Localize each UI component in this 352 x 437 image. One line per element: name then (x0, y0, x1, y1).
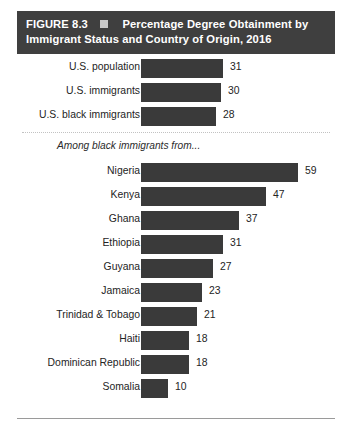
bar-track (141, 235, 223, 254)
bar-category-label: Guyana (0, 261, 140, 272)
bar-row: U.S. black immigrants28 (0, 106, 352, 130)
bar-value-label: 31 (230, 61, 242, 72)
bar-category-label: Jamaica (0, 285, 140, 296)
bar (141, 235, 223, 254)
section-divider (22, 132, 330, 133)
bar-track (141, 163, 298, 182)
bar-row: U.S. immigrants30 (0, 82, 352, 106)
bar-category-label: Ghana (0, 213, 140, 224)
bar-row: Dominican Republic18 (0, 354, 352, 378)
bar-track (141, 83, 221, 102)
figure-title-part-1: Percentage Degree Obtainment by (122, 18, 308, 30)
bar-category-label: Trinidad & Tobago (0, 309, 140, 320)
bar (141, 331, 189, 350)
figure-container: FIGURE 8.3 Percentage Degree Obtainment … (0, 0, 352, 437)
bar (141, 355, 189, 374)
bar-track (141, 307, 197, 326)
bar-track (141, 355, 189, 374)
bar (141, 83, 221, 102)
bar (141, 307, 197, 326)
bar-category-label: U.S. black immigrants (0, 109, 140, 120)
bar-value-label: 18 (196, 357, 208, 368)
bar-category-label: Kenya (0, 189, 140, 200)
bar-track (141, 211, 239, 230)
bar-row: Somalia10 (0, 378, 352, 402)
bar (141, 283, 202, 302)
bar-track (141, 283, 202, 302)
bar (141, 259, 213, 278)
bar (141, 163, 298, 182)
bar-track (141, 259, 213, 278)
bar-value-label: 37 (246, 213, 258, 224)
figure-header-band: FIGURE 8.3 Percentage Degree Obtainment … (17, 11, 335, 54)
bar-row: U.S. population31 (0, 58, 352, 82)
bar-category-label: Dominican Republic (0, 357, 140, 368)
chart-plot-area: U.S. population31U.S. immigrants30U.S. b… (0, 58, 352, 418)
bar-row: Trinidad & Tobago21 (0, 306, 352, 330)
bar-row: Nigeria59 (0, 162, 352, 186)
bar-value-label: 28 (223, 109, 235, 120)
bar (141, 211, 239, 230)
bar-value-label: 47 (273, 189, 285, 200)
bar-row: Guyana27 (0, 258, 352, 282)
bar-category-label: U.S. population (0, 61, 140, 72)
bar-track (141, 379, 168, 398)
bar-track (141, 59, 223, 78)
bar (141, 59, 223, 78)
bar-value-label: 31 (230, 237, 242, 248)
bar-value-label: 30 (228, 85, 240, 96)
bar-row: Kenya47 (0, 186, 352, 210)
bar-category-label: Nigeria (0, 165, 140, 176)
figure-number: FIGURE 8.3 (26, 18, 88, 30)
bar-value-label: 18 (196, 333, 208, 344)
figure-title-part-2: Immigrant Status and Country of Origin, … (26, 32, 327, 47)
bar-category-label: Somalia (0, 381, 140, 392)
section-note: Among black immigrants from... (57, 140, 200, 151)
bar-value-label: 59 (305, 165, 317, 176)
bar-category-label: Haiti (0, 333, 140, 344)
bar-track (141, 331, 189, 350)
bar-row: Jamaica23 (0, 282, 352, 306)
square-bullet-icon (100, 20, 108, 28)
bar-category-label: Ethiopia (0, 237, 140, 248)
bottom-divider (17, 418, 335, 419)
bar-track (141, 107, 216, 126)
figure-header-line-1: FIGURE 8.3 Percentage Degree Obtainment … (26, 17, 327, 32)
bar-value-label: 23 (209, 285, 221, 296)
bar (141, 187, 266, 206)
bar-row: Ethiopia31 (0, 234, 352, 258)
bar (141, 379, 168, 398)
bar-row: Haiti18 (0, 330, 352, 354)
bar-category-label: U.S. immigrants (0, 85, 140, 96)
bar-value-label: 10 (175, 381, 187, 392)
bar-value-label: 21 (204, 309, 216, 320)
bar (141, 107, 216, 126)
bar-track (141, 187, 266, 206)
bar-row: Ghana37 (0, 210, 352, 234)
bar-value-label: 27 (220, 261, 232, 272)
